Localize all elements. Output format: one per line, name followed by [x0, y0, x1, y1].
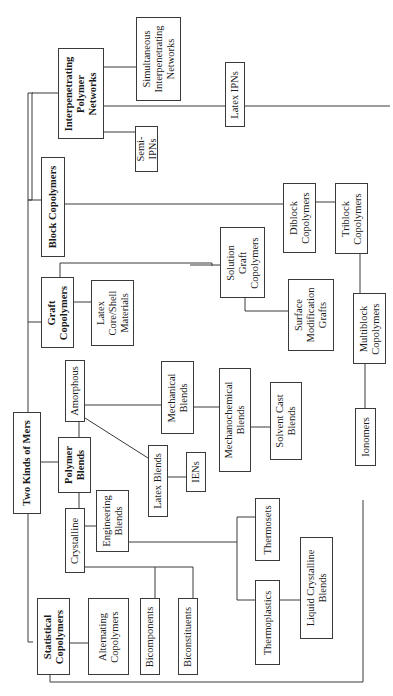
node-latex-core-shell-materials: Latex Core/Shell Materials: [91, 280, 134, 346]
node-solvent-cast-blends: Solvent Cast Blends: [270, 382, 302, 460]
node-simultaneous-interpenetrating-networks: Simultaneous Interpenetrating Networks: [136, 17, 181, 101]
node-latex-blends: Latex Blends: [148, 445, 168, 517]
node-graft-copolymers: Graft Copolymers: [41, 277, 74, 348]
node-bicomponents: Bicomponents: [140, 598, 160, 675]
node-two-kinds-of-mers: Two Kinds of Mers: [13, 412, 41, 514]
node-alternating-copolymers: Alternating Copolymers: [88, 598, 129, 675]
polymer-classification-diagram: Two Kinds of Mers Statistical Copolymers…: [0, 0, 393, 696]
node-thermosets: Thermosets: [255, 498, 280, 561]
node-mechanical-blends: Mechanical Blends: [161, 361, 194, 434]
node-engineering-blends: Engineering Blends: [96, 490, 129, 552]
node-mechanochemical-blends: Mechanochemical Blends: [219, 368, 251, 472]
node-thermoplastics: Thermoplastics: [255, 580, 280, 665]
node-polymer-blends: Polymer Blends: [58, 437, 91, 493]
node-statistical-copolymers: Statistical Copolymers: [37, 598, 70, 675]
node-crystalline: Crystalline: [65, 508, 85, 573]
node-diblock-copolymers: Diblock Copolymers: [283, 183, 316, 253]
node-amorphous: Amorphous: [65, 360, 85, 422]
node-triblock-copolymers: Triblock Copolymers: [335, 183, 368, 254]
node-latex-ipns: Latex IPNs: [225, 62, 245, 127]
node-liquid-crystalline-blends: Liquid Crystalline Blends: [300, 537, 333, 639]
node-multiblock-copolymers: Multiblock Copolymers: [353, 293, 386, 364]
node-ionomers: Ionomers: [355, 408, 376, 466]
node-biconstituents: Biconstituents: [178, 598, 198, 675]
node-iens: IENs: [186, 452, 206, 492]
node-interpenetrating-polymer-networks: Interpenetrating Polymer Networks: [58, 48, 104, 139]
node-block-copolymers: Block Copolymers: [41, 157, 65, 257]
node-solution-graft-copolymers: Solution Graft Copolymers: [220, 227, 265, 298]
node-semi-ipns: Semi- IPNs: [135, 126, 158, 172]
node-surface-modification-grafts: Surface Modification Grafts: [288, 279, 334, 351]
